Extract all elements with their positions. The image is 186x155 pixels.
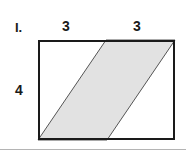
shaded-parallelogram bbox=[38, 40, 175, 140]
bottom-divider bbox=[0, 149, 186, 150]
left-side-dimension-label: 4 bbox=[15, 83, 23, 97]
top-right-dimension-label: 3 bbox=[133, 19, 141, 33]
geometry-figure: I. 3 3 4 bbox=[0, 0, 186, 155]
figure-canvas bbox=[0, 0, 186, 155]
top-left-dimension-label: 3 bbox=[62, 19, 70, 33]
problem-number-label: I. bbox=[15, 21, 22, 34]
